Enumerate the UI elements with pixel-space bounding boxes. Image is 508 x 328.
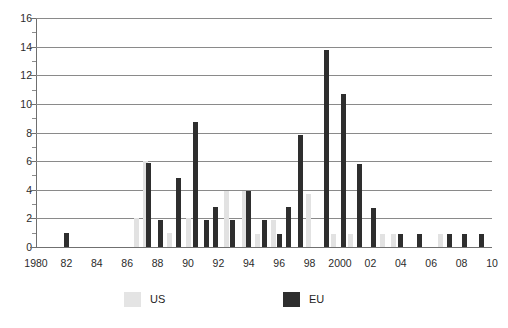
bar-eu-1994 xyxy=(246,191,251,247)
bar-eu-2004 xyxy=(398,234,403,247)
gridline-y-12 xyxy=(36,75,492,76)
bar-us-1994.6 xyxy=(255,234,260,247)
bar-eu-2007.2 xyxy=(447,234,452,247)
y-axis-label: 2 xyxy=(6,213,32,224)
gridline-y-6 xyxy=(36,161,492,162)
y-axis-label: 10 xyxy=(6,99,32,110)
x-axis-label: 82 xyxy=(61,258,73,269)
y-axis-label: 14 xyxy=(6,42,32,53)
y-tick-8 xyxy=(30,133,36,134)
y-tick-6 xyxy=(30,161,36,162)
bar-chart: 0246810121416 19808284868890929496982000… xyxy=(0,0,508,328)
y-axis-label: 6 xyxy=(6,156,32,167)
y-axis-label: 0 xyxy=(6,242,32,253)
y-axis-label: 16 xyxy=(6,13,32,24)
y-tick-0 xyxy=(30,247,36,248)
bar-eu-1991.2 xyxy=(204,220,209,247)
y-minor-tick-9 xyxy=(32,118,36,119)
y-minor-tick-5 xyxy=(32,175,36,176)
bar-eu-1997.4 xyxy=(298,135,303,247)
bar-us-1990 xyxy=(186,218,191,247)
bar-us-1995.6 xyxy=(271,220,276,247)
bar-us-1988.8 xyxy=(167,233,172,247)
y-axis-labels: 0246810121416 xyxy=(0,0,32,328)
bar-eu-1999.1 xyxy=(324,50,329,248)
y-minor-tick-7 xyxy=(32,147,36,148)
bar-us-2003.5 xyxy=(391,234,396,247)
bar-eu-2002.2 xyxy=(371,208,376,247)
bar-us-1997.9 xyxy=(306,194,311,247)
bar-eu-2001.3 xyxy=(357,164,362,247)
bar-eu-1988.2 xyxy=(158,220,163,247)
y-minor-tick-11 xyxy=(32,90,36,91)
plot-area xyxy=(36,18,492,247)
x-axis-label: 04 xyxy=(395,258,407,269)
x-axis-label: 96 xyxy=(273,258,285,269)
chart-legend: USEU xyxy=(0,292,508,318)
x-axis-label: 90 xyxy=(182,258,194,269)
y-tick-12 xyxy=(30,75,36,76)
bar-eu-1995 xyxy=(262,220,267,247)
x-axis-label: 84 xyxy=(91,258,103,269)
bar-eu-1987.4 xyxy=(146,163,151,247)
y-axis-label: 4 xyxy=(6,185,32,196)
gridline-y-8 xyxy=(36,133,492,134)
x-axis-label: 1980 xyxy=(24,258,47,269)
y-tick-10 xyxy=(30,104,36,105)
bar-us-2006.6 xyxy=(438,234,443,247)
bar-eu-1989.4 xyxy=(176,178,181,247)
legend-swatch-us-icon xyxy=(124,292,141,307)
bar-eu-1990.5 xyxy=(193,122,198,247)
bar-eu-2000.2 xyxy=(341,94,346,247)
y-tick-2 xyxy=(30,218,36,219)
legend-item-eu[interactable]: EU xyxy=(283,292,324,307)
x-axis-label: 92 xyxy=(213,258,225,269)
x-axis-label: 86 xyxy=(121,258,133,269)
y-tick-4 xyxy=(30,190,36,191)
gridline-y-4 xyxy=(36,190,492,191)
y-minor-tick-1 xyxy=(32,233,36,234)
y-minor-tick-15 xyxy=(32,32,36,33)
bar-us-1999.6 xyxy=(331,234,336,247)
legend-label: US xyxy=(150,294,165,305)
y-minor-tick-3 xyxy=(32,204,36,205)
x-axis-label: 02 xyxy=(365,258,377,269)
y-tick-14 xyxy=(30,47,36,48)
x-axis-line xyxy=(36,247,492,248)
bar-eu-1982 xyxy=(64,233,69,247)
bar-eu-1991.8 xyxy=(213,207,218,247)
bar-us-1992.5 xyxy=(224,191,229,247)
y-tick-16 xyxy=(30,18,36,19)
x-axis-label: 10 xyxy=(486,258,498,269)
bar-eu-2009.3 xyxy=(479,234,484,247)
gridline-y-14 xyxy=(36,47,492,48)
x-axis-label: 98 xyxy=(304,258,316,269)
x-axis-label: 94 xyxy=(243,258,255,269)
bar-us-2002.8 xyxy=(380,234,385,247)
bar-us-2000.7 xyxy=(348,234,353,247)
bar-eu-2008.2 xyxy=(462,234,467,247)
x-axis-label: 2000 xyxy=(328,258,351,269)
legend-swatch-eu-icon xyxy=(283,292,300,307)
legend-label: EU xyxy=(309,294,324,305)
y-axis-label: 12 xyxy=(6,70,32,81)
gridline-y-16 xyxy=(36,18,492,19)
y-minor-tick-13 xyxy=(32,61,36,62)
legend-item-us[interactable]: US xyxy=(124,292,165,307)
gridline-y-10 xyxy=(36,104,492,105)
bar-eu-1992.9 xyxy=(230,220,235,247)
x-axis-label: 06 xyxy=(425,258,437,269)
y-axis-label: 8 xyxy=(6,128,32,139)
bar-eu-2005.2 xyxy=(417,234,422,247)
bar-us-1986.6 xyxy=(134,218,139,247)
x-axis-label: 08 xyxy=(456,258,468,269)
x-axis-label: 88 xyxy=(152,258,164,269)
bar-eu-1996 xyxy=(277,234,282,247)
bar-eu-1996.6 xyxy=(286,207,291,247)
